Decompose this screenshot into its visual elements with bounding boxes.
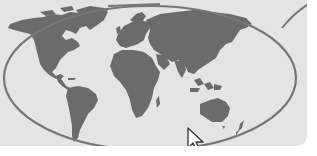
illustration-panel: World map with highlighted selection and… bbox=[0, 0, 307, 146]
mouse-cursor-icon bbox=[188, 128, 203, 146]
south-america bbox=[66, 86, 98, 142]
world-map-illustration bbox=[0, 0, 307, 146]
europe bbox=[116, 20, 150, 48]
central-america bbox=[56, 76, 70, 90]
world-map bbox=[8, 6, 252, 142]
africa bbox=[110, 50, 160, 118]
callout-line bbox=[282, 1, 307, 28]
australia bbox=[200, 98, 230, 122]
